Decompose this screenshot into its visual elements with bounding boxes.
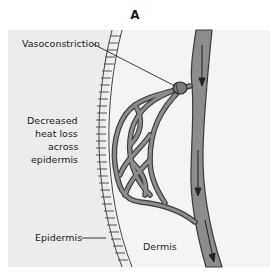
epidermis-label: Epidermis (35, 232, 82, 244)
vasoconstriction-label: Vasoconstriction (22, 38, 100, 50)
heat-loss-label-3: across (48, 141, 78, 153)
heat-loss-label-2: heat loss (35, 128, 78, 140)
heat-loss-label-4: epidermis (31, 154, 78, 166)
vasoconstriction-sphincter (173, 82, 187, 94)
heat-loss-label-1: Decreased (27, 115, 78, 127)
dermis-label: Dermis (143, 241, 177, 253)
